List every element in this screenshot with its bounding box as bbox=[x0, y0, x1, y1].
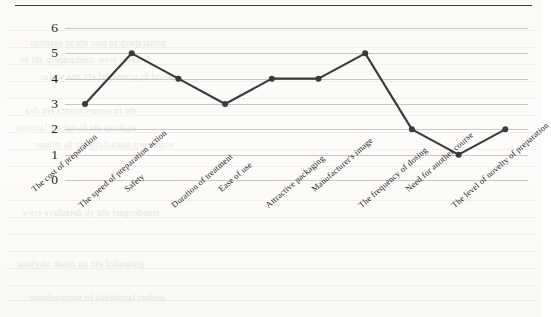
data-point-4 bbox=[222, 101, 228, 107]
y-tick-4: 4 bbox=[36, 72, 58, 86]
x-axis-category-labels: The cost of preparationThe speed of prep… bbox=[0, 181, 542, 317]
y-tick-2: 2 bbox=[36, 122, 58, 136]
y-tick-6: 6 bbox=[36, 21, 58, 35]
data-point-1 bbox=[82, 101, 88, 107]
top-horizontal-rule bbox=[15, 5, 532, 6]
y-axis-tick-labels: 6 5 4 3 2 1 0 bbox=[34, 28, 58, 180]
data-point-2 bbox=[129, 50, 135, 56]
data-point-6 bbox=[316, 76, 322, 82]
y-tick-1: 1 bbox=[36, 148, 58, 162]
data-point-7 bbox=[362, 50, 368, 56]
data-point-3 bbox=[175, 76, 181, 82]
data-point-8 bbox=[409, 126, 415, 132]
data-point-5 bbox=[269, 76, 275, 82]
y-tick-3: 3 bbox=[36, 97, 58, 111]
y-tick-5: 5 bbox=[36, 46, 58, 60]
data-point-10 bbox=[502, 126, 508, 132]
